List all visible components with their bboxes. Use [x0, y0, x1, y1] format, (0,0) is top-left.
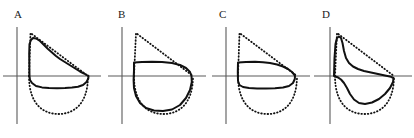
- figure-panel-grid: ABCD: [0, 0, 414, 138]
- plot-panel: D: [0, 0, 414, 138]
- curve-reference-envelope: [335, 33, 394, 76]
- plot-panel: C: [0, 0, 414, 138]
- curve-measured-loop: [134, 62, 192, 111]
- plot-canvas: [0, 0, 414, 138]
- curve-reference-semicircle: [134, 76, 193, 114]
- plot-panel: A: [0, 0, 414, 138]
- curve-reference-envelope: [29, 33, 88, 76]
- curve-measured-loop: [29, 38, 88, 88]
- plot-canvas: [0, 0, 414, 138]
- curve-reference-semicircle: [335, 76, 394, 114]
- curve-reference-envelope: [134, 33, 193, 76]
- plot-canvas: [0, 0, 414, 138]
- curve-measured-loop: [334, 37, 394, 105]
- curve-measured-loop: [238, 62, 295, 89]
- panel-label: D: [322, 9, 330, 20]
- plot-panel: B: [0, 0, 414, 138]
- panel-label: C: [219, 9, 227, 20]
- curve-reference-semicircle: [238, 76, 297, 114]
- panel-label: B: [118, 9, 126, 20]
- panel-label: A: [14, 9, 22, 20]
- curve-reference-semicircle: [29, 76, 88, 114]
- plot-canvas: [0, 0, 414, 138]
- curve-reference-envelope: [238, 33, 297, 76]
